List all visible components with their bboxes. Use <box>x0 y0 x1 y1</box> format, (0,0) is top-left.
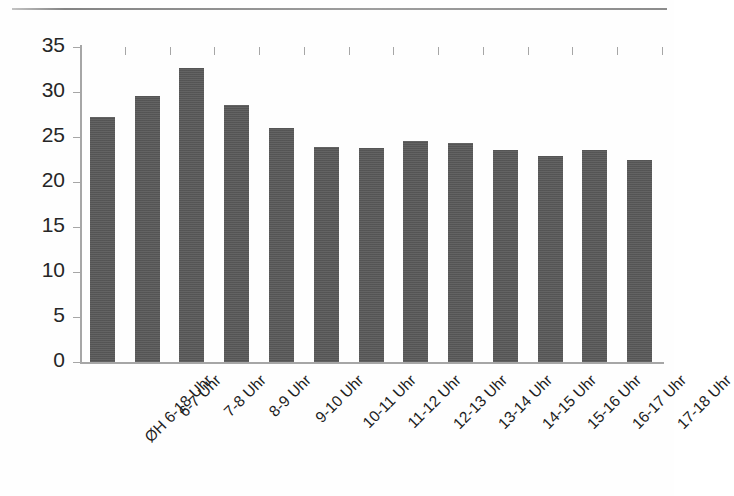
bar <box>179 68 204 362</box>
y-axis-tick-label: 15 <box>19 214 65 235</box>
page-top-rule <box>12 8 667 10</box>
y-axis-tick: 5 <box>73 317 80 318</box>
y-axis-tick-label: 35 <box>19 34 65 55</box>
y-axis-tick: 20 <box>73 182 80 183</box>
y-axis-tick: 30 <box>73 92 80 93</box>
x-axis-category-labels: ØH 6-18 Uhr6-7 Uhr7-8 Uhr8-9 Uhr9-10 Uhr… <box>80 372 664 492</box>
x-axis-line <box>80 362 664 364</box>
bar <box>90 117 115 362</box>
bar <box>269 128 294 362</box>
bar <box>448 143 473 362</box>
x-axis-tick <box>393 47 394 55</box>
y-axis-tick: 0 <box>73 362 80 363</box>
y-axis-tick-label: 10 <box>19 259 65 280</box>
bar <box>403 141 428 362</box>
y-axis-tick-label: 0 <box>19 349 65 370</box>
bar <box>493 150 518 362</box>
x-axis-tick <box>483 47 484 55</box>
y-axis-tick-label: 30 <box>19 79 65 100</box>
x-axis-tick <box>125 47 126 55</box>
y-axis-tick: 35 <box>73 47 80 48</box>
x-axis-tick <box>304 47 305 55</box>
x-axis-tick <box>349 47 350 55</box>
bar <box>224 105 249 362</box>
x-axis-tick <box>617 47 618 55</box>
bar <box>538 156 563 362</box>
bar <box>359 148 384 362</box>
x-axis-tick <box>572 47 573 55</box>
y-axis-tick-label: 5 <box>19 304 65 325</box>
y-axis-tick: 15 <box>73 227 80 228</box>
bar <box>135 96 160 362</box>
y-axis-tick: 25 <box>73 137 80 138</box>
x-axis-tick <box>259 47 260 55</box>
x-axis-tick <box>662 47 663 55</box>
plot-area: 05101520253035 <box>80 47 662 362</box>
x-axis-category-label: 9-10 Uhr <box>313 372 367 426</box>
bar <box>627 160 652 362</box>
x-axis-tick <box>214 47 215 55</box>
bar <box>314 147 339 362</box>
x-axis-category-label: 7-8 Uhr <box>221 372 269 420</box>
x-axis-category-label: 8-9 Uhr <box>266 372 314 420</box>
y-axis-tick: 10 <box>73 272 80 273</box>
bar <box>582 150 607 362</box>
x-axis-tick <box>438 47 439 55</box>
y-axis-tick-label: 20 <box>19 169 65 190</box>
y-axis-tick-label: 25 <box>19 124 65 145</box>
x-axis-tick <box>528 47 529 55</box>
x-axis-tick <box>170 47 171 55</box>
x-axis-tick <box>80 47 81 55</box>
